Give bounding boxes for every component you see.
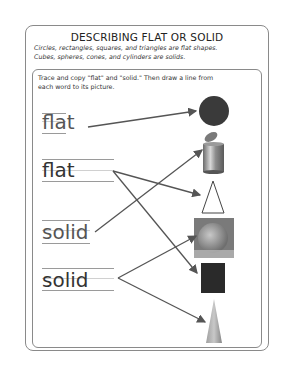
connection-arrows [0,0,283,373]
arrow-flat2-triangle [113,171,200,195]
arrow-flat1-circle [88,111,196,127]
arrow-solid2-cone [118,278,205,322]
